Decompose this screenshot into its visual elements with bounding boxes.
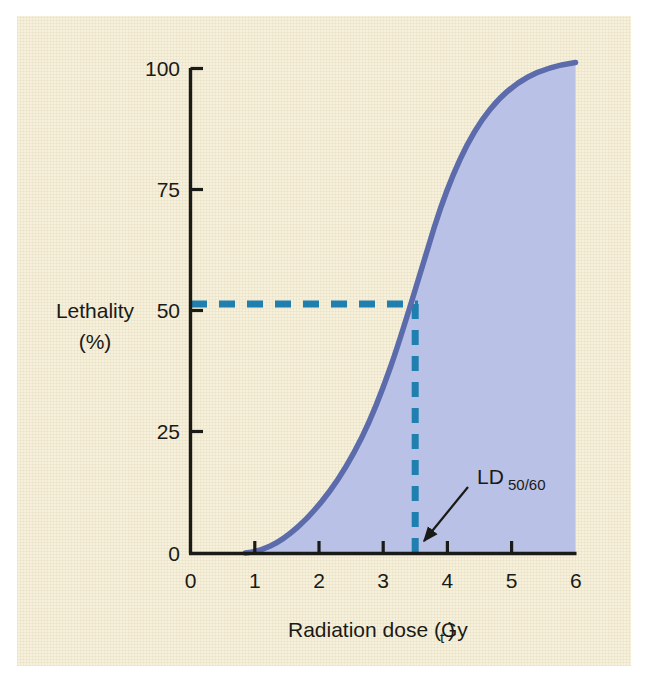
x-tick-label-3: 3 (377, 569, 389, 592)
x-tick-label-2: 2 (313, 569, 325, 592)
x-tick-label-1: 1 (249, 569, 261, 592)
y-tick-label-25: 25 (157, 420, 180, 443)
y-tick-label-50: 50 (157, 299, 180, 322)
x-tick-label-0: 0 (185, 569, 197, 592)
y-axis-ticks (191, 69, 204, 432)
x-axis-title-closeparen: ) (448, 618, 455, 641)
y-tick-label-100: 100 (145, 57, 180, 80)
y-tick-label-0: 0 (168, 542, 180, 565)
figure-root: 100 75 50 25 0 0 1 2 3 4 5 6 Lethality (… (0, 0, 648, 677)
ld50-label: LD (477, 465, 504, 488)
x-tick-label-6: 6 (570, 569, 582, 592)
x-tick-label-5: 5 (506, 569, 518, 592)
x-tick-label-4: 4 (442, 569, 454, 592)
ld50-label-subscript: 50/60 (508, 476, 546, 493)
y-axis-units: (%) (79, 330, 112, 353)
y-tick-label-75: 75 (157, 178, 180, 201)
y-axis-title: Lethality (56, 299, 135, 322)
x-axis-title-group: Radiation dose (Gy t ) (288, 618, 468, 646)
lethality-dose-chart: 100 75 50 25 0 0 1 2 3 4 5 6 Lethality (… (0, 0, 648, 677)
